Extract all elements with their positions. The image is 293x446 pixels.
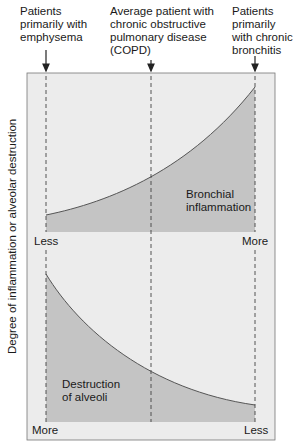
upper-right-end-label: More xyxy=(242,235,268,248)
upper-left-end-label: Less xyxy=(34,235,58,248)
lower-area-label: Destruction of alveoli xyxy=(62,378,120,404)
label-line: Bronchial xyxy=(186,188,251,201)
lower-right-end-label: Less xyxy=(244,424,268,437)
lower-left-end-label: More xyxy=(32,424,58,437)
label-line: of alveoli xyxy=(62,391,120,404)
arrow-icons xyxy=(43,50,258,71)
diagram-graphic xyxy=(0,0,293,446)
label-line: Destruction xyxy=(62,378,120,391)
y-axis-label: Degree of inflammation or alveolar destr… xyxy=(6,154,18,354)
upper-area-label: Bronchial inflammation xyxy=(186,188,251,214)
label-line: inflammation xyxy=(186,201,251,214)
